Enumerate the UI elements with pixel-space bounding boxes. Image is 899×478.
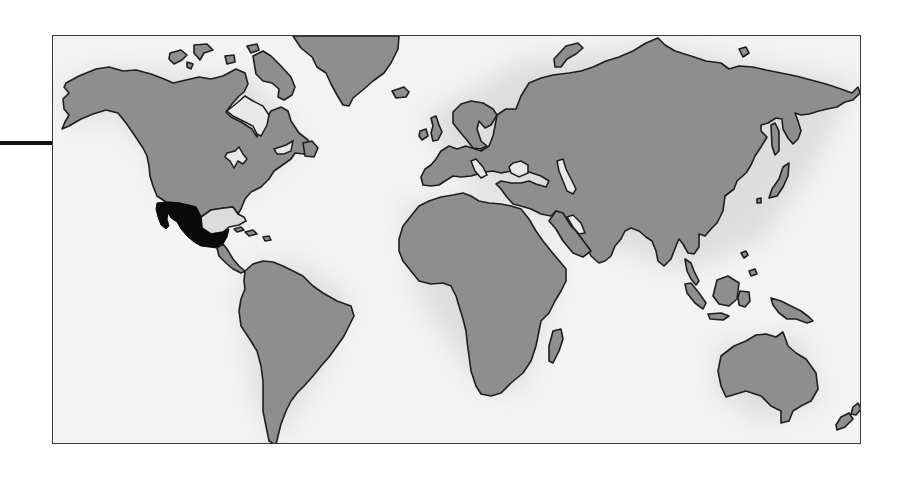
world-map-frame <box>52 35 861 444</box>
leader-line <box>0 141 53 145</box>
sulawesi <box>738 291 750 307</box>
newfoundland <box>303 141 318 157</box>
philippines <box>741 251 748 258</box>
central-america <box>217 244 245 273</box>
new-zealand-north <box>851 403 861 415</box>
madagascar <box>549 329 563 363</box>
taiwan <box>757 198 761 203</box>
greenland <box>293 36 399 106</box>
new-zealand-south <box>836 413 853 430</box>
puerto-rico <box>263 236 271 241</box>
north-america <box>62 67 311 217</box>
arctic-island <box>169 50 187 64</box>
philippines-south <box>749 269 757 276</box>
arctic-island-asia <box>739 47 749 57</box>
sumatra <box>685 283 706 309</box>
new-guinea <box>771 298 813 323</box>
borneo <box>713 276 739 306</box>
world-map <box>53 36 861 444</box>
java <box>708 313 729 320</box>
hispaniola <box>245 230 257 236</box>
arctic-island <box>247 44 259 53</box>
arctic-island <box>194 44 213 60</box>
iceland <box>392 87 409 98</box>
arctic-island <box>187 62 193 69</box>
cuba <box>234 227 244 232</box>
ireland <box>419 129 428 140</box>
arctic-island <box>225 55 235 64</box>
